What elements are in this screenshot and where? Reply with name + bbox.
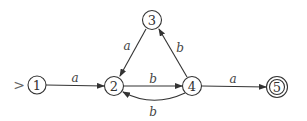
edge-3-to-2: a: [120, 29, 146, 76]
edge-label-3-2: a: [123, 39, 130, 53]
edge-2-to-4: b: [124, 72, 182, 86]
state-2: 2: [105, 77, 124, 96]
state-label-3: 3: [148, 13, 156, 28]
edge-4-to-2-curved: b: [123, 92, 185, 119]
edge-label-4-2: b: [149, 105, 157, 119]
edge-label-2-4: b: [149, 72, 157, 86]
edge-1-to-2: a: [46, 71, 104, 86]
state-label-4: 4: [188, 79, 196, 94]
state-1: 1: [28, 76, 46, 94]
edge-label-4-3: b: [176, 41, 184, 55]
edge-label-4-5: a: [229, 72, 236, 86]
edge-4-to-5: a: [202, 72, 266, 87]
start-marker: >: [13, 77, 25, 93]
edge-4-to-3: b: [159, 29, 187, 77]
state-label-1: 1: [33, 78, 41, 93]
state-label-5: 5: [273, 80, 281, 95]
state-4: 4: [183, 77, 202, 96]
state-label-2: 2: [110, 79, 118, 94]
state-5-accepting: 5: [267, 77, 288, 98]
automaton-diagram: > a a b b b a 1 2 3 4: [0, 0, 307, 121]
edge-label-1-2: a: [71, 71, 78, 85]
state-3: 3: [143, 11, 162, 30]
